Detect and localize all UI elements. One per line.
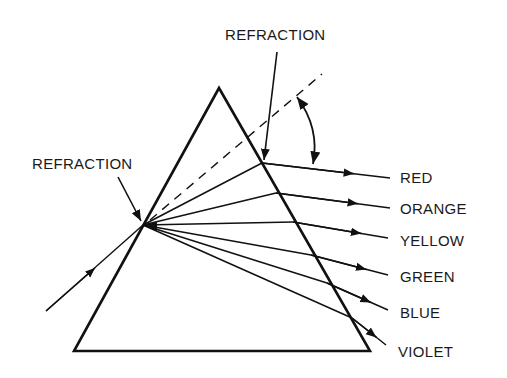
label-orange: ORANGE [400,200,467,217]
arrow-icon-red [262,163,354,174]
prism-triangle [74,88,370,351]
arrow-icon-yellow [293,222,361,234]
incident-ray-arrow-icon [46,268,95,311]
ray-inside-violet [143,225,352,318]
diagram-canvas: REFRACTION REFRACTION REDORANGEYELLOWGRE… [0,0,507,378]
deviation-angle-arc-icon [297,97,315,164]
label-green: GREEN [400,268,455,285]
label-violet: VIOLET [398,343,453,360]
arrow-icon-orange [276,193,358,204]
top-refraction-pointer-arrow-icon [264,52,277,160]
arrow-icon-blue [327,283,371,302]
ray-inside-yellow [143,222,293,225]
label-yellow: YELLOW [400,232,465,249]
left-refraction-label: REFRACTION [32,155,133,172]
prism-diagram: REFRACTION REFRACTION REDORANGEYELLOWGRE… [0,0,507,378]
label-red: RED [400,169,433,186]
spectrum-rays [143,163,390,345]
ray-inside-blue [143,225,327,283]
top-refraction-label: REFRACTION [225,26,326,43]
undeviated-path-dashed-line [150,74,322,220]
left-refraction-pointer-arrow-icon [118,177,141,221]
ray-inside-green [143,225,311,255]
color-labels: REDORANGEYELLOWGREENBLUEVIOLET [398,169,467,360]
label-blue: BLUE [400,304,440,321]
